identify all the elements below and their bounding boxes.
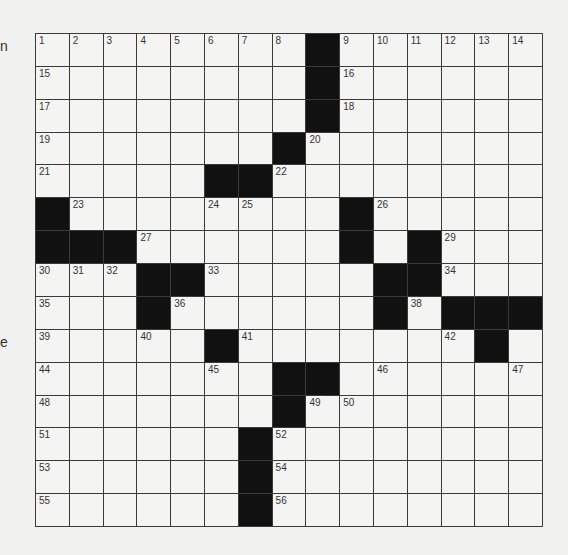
crossword-cell[interactable]: [70, 330, 103, 362]
crossword-cell[interactable]: [273, 198, 306, 230]
crossword-cell[interactable]: [70, 363, 103, 395]
crossword-cell[interactable]: 8: [273, 34, 306, 66]
crossword-cell[interactable]: [273, 100, 306, 132]
crossword-cell[interactable]: 36: [171, 297, 204, 329]
crossword-cell[interactable]: [509, 461, 542, 493]
crossword-cell[interactable]: [171, 396, 204, 428]
crossword-cell[interactable]: 19: [36, 133, 69, 165]
crossword-cell[interactable]: [171, 330, 204, 362]
crossword-cell[interactable]: [171, 363, 204, 395]
crossword-cell[interactable]: 7: [239, 34, 272, 66]
crossword-cell[interactable]: [306, 428, 339, 460]
crossword-cell[interactable]: [239, 264, 272, 296]
crossword-cell[interactable]: [171, 165, 204, 197]
crossword-cell[interactable]: [442, 363, 475, 395]
crossword-cell[interactable]: [374, 461, 407, 493]
crossword-cell[interactable]: [137, 100, 170, 132]
crossword-cell[interactable]: [104, 363, 137, 395]
crossword-cell[interactable]: 1: [36, 34, 69, 66]
crossword-cell[interactable]: [509, 231, 542, 263]
crossword-cell[interactable]: [70, 297, 103, 329]
crossword-cell[interactable]: 34: [442, 264, 475, 296]
crossword-cell[interactable]: [171, 461, 204, 493]
crossword-cell[interactable]: [442, 428, 475, 460]
crossword-cell[interactable]: [137, 165, 170, 197]
crossword-cell[interactable]: 35: [36, 297, 69, 329]
crossword-cell[interactable]: [306, 494, 339, 526]
crossword-cell[interactable]: [70, 67, 103, 99]
crossword-cell[interactable]: 16: [340, 67, 373, 99]
crossword-cell[interactable]: [475, 396, 508, 428]
crossword-cell[interactable]: [475, 67, 508, 99]
crossword-cell[interactable]: [475, 363, 508, 395]
crossword-cell[interactable]: 3: [104, 34, 137, 66]
crossword-cell[interactable]: 10: [374, 34, 407, 66]
crossword-cell[interactable]: 13: [475, 34, 508, 66]
crossword-cell[interactable]: [340, 494, 373, 526]
crossword-cell[interactable]: [171, 494, 204, 526]
crossword-cell[interactable]: [509, 494, 542, 526]
crossword-cell[interactable]: [70, 428, 103, 460]
crossword-cell[interactable]: [70, 100, 103, 132]
crossword-cell[interactable]: [104, 198, 137, 230]
crossword-cell[interactable]: [104, 330, 137, 362]
crossword-cell[interactable]: [509, 396, 542, 428]
crossword-cell[interactable]: [374, 330, 407, 362]
crossword-cell[interactable]: 14: [509, 34, 542, 66]
crossword-cell[interactable]: [408, 428, 441, 460]
crossword-cell[interactable]: [340, 363, 373, 395]
crossword-cell[interactable]: [340, 330, 373, 362]
crossword-cell[interactable]: 22: [273, 165, 306, 197]
crossword-cell[interactable]: [239, 297, 272, 329]
crossword-cell[interactable]: [475, 100, 508, 132]
crossword-cell[interactable]: [137, 133, 170, 165]
crossword-cell[interactable]: [273, 231, 306, 263]
crossword-cell[interactable]: [306, 198, 339, 230]
crossword-cell[interactable]: 29: [442, 231, 475, 263]
crossword-cell[interactable]: [475, 231, 508, 263]
crossword-cell[interactable]: [509, 133, 542, 165]
crossword-cell[interactable]: [137, 461, 170, 493]
crossword-cell[interactable]: 11: [408, 34, 441, 66]
crossword-cell[interactable]: [205, 494, 238, 526]
crossword-cell[interactable]: 41: [239, 330, 272, 362]
crossword-cell[interactable]: [273, 330, 306, 362]
crossword-cell[interactable]: 6: [205, 34, 238, 66]
crossword-cell[interactable]: [408, 100, 441, 132]
crossword-cell[interactable]: [475, 165, 508, 197]
crossword-cell[interactable]: [171, 67, 204, 99]
crossword-cell[interactable]: 17: [36, 100, 69, 132]
crossword-cell[interactable]: [205, 133, 238, 165]
crossword-cell[interactable]: 31: [70, 264, 103, 296]
crossword-cell[interactable]: 18: [340, 100, 373, 132]
crossword-cell[interactable]: [104, 67, 137, 99]
crossword-cell[interactable]: [137, 494, 170, 526]
crossword-cell[interactable]: [306, 297, 339, 329]
crossword-cell[interactable]: 51: [36, 428, 69, 460]
crossword-cell[interactable]: [340, 165, 373, 197]
crossword-cell[interactable]: [374, 100, 407, 132]
crossword-cell[interactable]: [340, 461, 373, 493]
crossword-cell[interactable]: [374, 396, 407, 428]
crossword-cell[interactable]: 54: [273, 461, 306, 493]
crossword-cell[interactable]: [70, 494, 103, 526]
crossword-cell[interactable]: 15: [36, 67, 69, 99]
crossword-cell[interactable]: [104, 297, 137, 329]
crossword-cell[interactable]: 32: [104, 264, 137, 296]
crossword-cell[interactable]: 48: [36, 396, 69, 428]
crossword-cell[interactable]: 21: [36, 165, 69, 197]
crossword-cell[interactable]: [475, 461, 508, 493]
crossword-cell[interactable]: [408, 133, 441, 165]
crossword-cell[interactable]: [442, 133, 475, 165]
crossword-cell[interactable]: [171, 231, 204, 263]
crossword-cell[interactable]: [306, 264, 339, 296]
crossword-cell[interactable]: [408, 67, 441, 99]
crossword-cell[interactable]: [408, 396, 441, 428]
crossword-cell[interactable]: 50: [340, 396, 373, 428]
crossword-cell[interactable]: [408, 363, 441, 395]
crossword-cell[interactable]: [408, 461, 441, 493]
crossword-cell[interactable]: [137, 198, 170, 230]
crossword-cell[interactable]: [171, 428, 204, 460]
crossword-cell[interactable]: 40: [137, 330, 170, 362]
crossword-cell[interactable]: [442, 100, 475, 132]
